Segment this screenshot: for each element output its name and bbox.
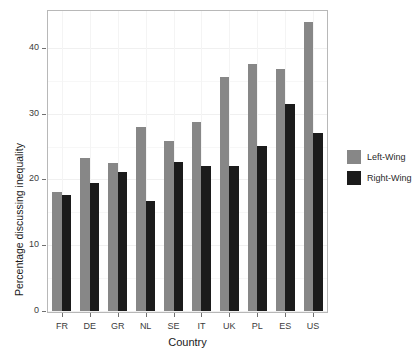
y-tick-mark bbox=[42, 114, 46, 115]
bar-fr-left-wing bbox=[52, 192, 61, 311]
x-tick-mark bbox=[174, 313, 175, 317]
bar-se-left-wing bbox=[164, 141, 173, 311]
bar-es-left-wing bbox=[276, 69, 285, 311]
y-tick-mark bbox=[42, 48, 46, 49]
bar-se-right-wing bbox=[174, 162, 183, 311]
bar-it-right-wing bbox=[201, 166, 210, 311]
x-tick-mark bbox=[118, 313, 119, 317]
x-tick-mark bbox=[146, 313, 147, 317]
bar-fr-right-wing bbox=[62, 195, 71, 311]
legend-label-right-wing: Right-Wing bbox=[367, 173, 412, 183]
bar-it-left-wing bbox=[192, 122, 201, 311]
bar-pl-right-wing bbox=[257, 146, 266, 311]
bar-group bbox=[104, 11, 132, 312]
x-tick-mark bbox=[313, 313, 314, 317]
legend-label-left-wing: Left-Wing bbox=[367, 152, 406, 162]
bar-group bbox=[76, 11, 104, 312]
bar-pl-left-wing bbox=[248, 64, 257, 311]
x-tick-mark bbox=[257, 313, 258, 317]
bar-de-left-wing bbox=[80, 158, 89, 311]
bar-uk-right-wing bbox=[229, 166, 238, 311]
y-axis-title: Percentage discussing inequality bbox=[13, 143, 25, 296]
bar-group bbox=[299, 11, 327, 312]
bar-us-left-wing bbox=[304, 22, 313, 311]
x-tick-label-us: US bbox=[293, 321, 333, 331]
bar-group bbox=[188, 11, 216, 312]
bar-de-right-wing bbox=[90, 183, 99, 311]
legend: Left-Wing Right-Wing bbox=[347, 148, 416, 190]
plot-area bbox=[47, 10, 328, 313]
bar-nl-left-wing bbox=[136, 127, 145, 311]
bar-nl-right-wing bbox=[146, 201, 155, 312]
y-tick-label: 0 bbox=[34, 306, 39, 315]
bar-group bbox=[243, 11, 271, 312]
y-tick-label: 20 bbox=[29, 174, 39, 183]
x-tick-mark bbox=[62, 313, 63, 317]
legend-item-left-wing: Left-Wing bbox=[347, 148, 416, 166]
x-tick-mark bbox=[90, 313, 91, 317]
bar-group bbox=[271, 11, 299, 312]
y-tick-mark bbox=[42, 245, 46, 246]
bars-layer bbox=[48, 11, 327, 312]
y-tick-label: 40 bbox=[29, 43, 39, 52]
bar-group bbox=[132, 11, 160, 312]
bar-gr-right-wing bbox=[118, 172, 127, 311]
y-tick-mark bbox=[42, 311, 46, 312]
bar-gr-left-wing bbox=[108, 163, 117, 311]
bar-es-right-wing bbox=[285, 104, 294, 311]
x-axis-title: Country bbox=[47, 336, 328, 348]
bar-group bbox=[160, 11, 188, 312]
bar-uk-left-wing bbox=[220, 77, 229, 311]
legend-swatch-left-wing-icon bbox=[347, 150, 361, 164]
bar-chart: Percentage discussing inequality 0102030… bbox=[0, 0, 416, 361]
x-tick-mark bbox=[229, 313, 230, 317]
x-tick-mark bbox=[285, 313, 286, 317]
bar-group bbox=[215, 11, 243, 312]
legend-swatch-right-wing-icon bbox=[347, 171, 361, 185]
x-tick-mark bbox=[201, 313, 202, 317]
y-tick-mark bbox=[42, 179, 46, 180]
bar-us-right-wing bbox=[313, 133, 322, 311]
legend-item-right-wing: Right-Wing bbox=[347, 169, 416, 187]
y-tick-label: 30 bbox=[29, 109, 39, 118]
y-tick-label: 10 bbox=[29, 240, 39, 249]
bar-group bbox=[48, 11, 76, 312]
